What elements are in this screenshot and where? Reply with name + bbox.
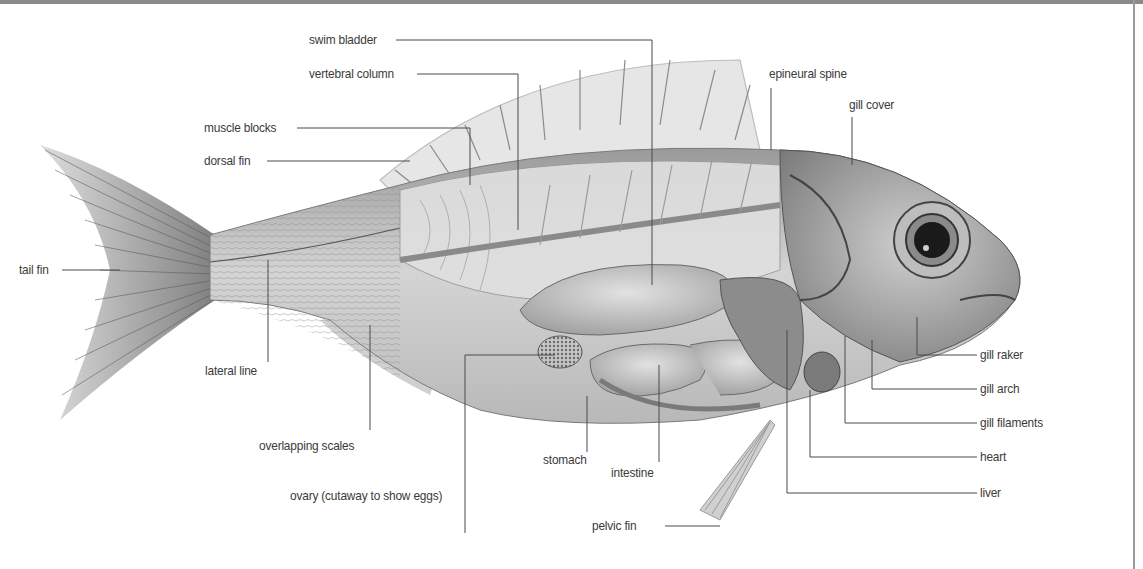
label-gill-raker: gill raker xyxy=(980,347,1023,363)
fish-illustration xyxy=(0,0,1143,569)
label-swim-bladder: swim bladder xyxy=(309,32,377,48)
label-liver: liver xyxy=(980,485,1001,501)
label-intestine: intestine xyxy=(611,465,654,481)
label-gill-filaments: gill filaments xyxy=(980,415,1043,431)
label-heart: heart xyxy=(980,449,1006,465)
ovary-shape xyxy=(538,336,582,368)
label-gill-arch: gill arch xyxy=(980,381,1019,397)
label-ovary: ovary (cutaway to show eggs) xyxy=(290,488,442,504)
pelvic-fin-shape xyxy=(700,420,775,520)
label-overlapping-scales: overlapping scales xyxy=(259,438,354,454)
label-gill-cover: gill cover xyxy=(849,97,894,113)
label-lateral-line: lateral line xyxy=(205,363,257,379)
label-dorsal-fin: dorsal fin xyxy=(204,153,250,169)
label-pelvic-fin: pelvic fin xyxy=(592,518,636,534)
label-epineural-spine: epineural spine xyxy=(769,66,847,82)
fish-eye-shape xyxy=(894,202,970,278)
label-stomach: stomach xyxy=(543,452,587,468)
label-tail-fin: tail fin xyxy=(19,262,49,278)
diagram-frame: swim bladder vertebral column muscle blo… xyxy=(0,0,1143,569)
label-vertebral-column: vertebral column xyxy=(309,66,394,82)
tail-fin-shape xyxy=(40,145,215,420)
heart-shape xyxy=(804,352,840,392)
label-muscle-blocks: muscle blocks xyxy=(204,120,276,136)
